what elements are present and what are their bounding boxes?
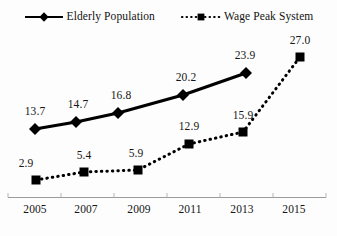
x-tick-label-2007: 2007 [74, 203, 97, 215]
series-line-elderly-population [35, 73, 246, 129]
data-label-elderly-2007: 14.7 [68, 98, 89, 110]
data-label-elderly-2005: 13.7 [25, 105, 46, 117]
data-label-wage-2007: 5.4 [77, 149, 92, 161]
data-label-wage-2011: 12.9 [179, 120, 200, 132]
data-label-wage-2005: 2.9 [19, 157, 34, 169]
x-tick-label-2009: 2009 [127, 203, 150, 215]
plot-area [0, 0, 337, 236]
data-label-elderly-2011: 20.2 [176, 71, 197, 83]
data-label-elderly-2013: 23.9 [235, 49, 256, 61]
x-axis-ticks [8, 193, 326, 198]
line-chart: Elderly Population Wage Peak System [0, 0, 337, 236]
series-markers-wage-peak-system [32, 53, 305, 185]
x-tick-label-2011: 2011 [179, 203, 202, 215]
x-tick-label-2013: 2013 [230, 203, 253, 215]
x-tick-label-2015: 2015 [282, 203, 305, 215]
data-label-wage-2015: 27.0 [290, 34, 311, 46]
data-label-wage-2009: 5.9 [129, 147, 144, 159]
x-tick-label-2005: 2005 [23, 203, 46, 215]
data-label-elderly-2009: 16.8 [111, 89, 132, 101]
data-label-wage-2013: 15.9 [233, 109, 254, 121]
